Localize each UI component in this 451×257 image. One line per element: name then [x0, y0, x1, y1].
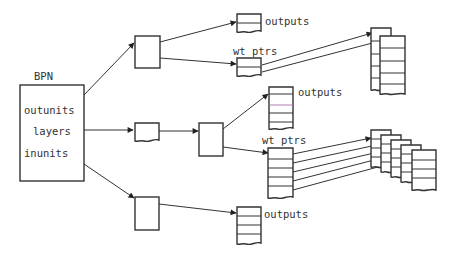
arrow-bottom-to-outputs [159, 204, 236, 213]
top-weight-array-2 [380, 36, 405, 95]
arrow-outunits-to-top-layer [84, 43, 134, 95]
top-wtptrs-label: wt ptrs [233, 45, 277, 57]
middle-wtptrs-label: wt ptrs [262, 134, 306, 146]
top-wtptrs-array [237, 58, 261, 76]
arrow-wtptr-1 [262, 33, 372, 65]
top-outputs-array [237, 14, 261, 32]
top-outputs-label: outputs [265, 15, 309, 27]
arrow-inunits-to-bottom-layer [84, 164, 134, 198]
arrow-wtptr-2 [262, 41, 380, 72]
arrow-top-to-wtptrs [160, 58, 236, 64]
top-layer-node [135, 36, 160, 68]
middle-layer-node [199, 123, 223, 156]
middle-wtptrs-array [268, 148, 293, 198]
layers-array [135, 123, 159, 141]
bottom-outputs-label: outputs [264, 208, 308, 220]
bottom-layer-node [135, 197, 159, 230]
field-layers: layers [33, 125, 71, 137]
bpn-title-label: BPN [34, 70, 53, 82]
middle-outputs-array [269, 87, 293, 129]
field-outunits: outunits [24, 104, 75, 116]
bpn-structure-diagram: BPN outunits layers inunits outputs wt p… [0, 0, 451, 257]
field-inunits: inunits [24, 147, 68, 159]
bottom-outputs-array [237, 207, 261, 244]
arrow-top-to-outputs [160, 22, 236, 42]
arrow-middle-to-outputs [223, 94, 268, 129]
bpn-root-node: BPN outunits layers inunits [20, 70, 84, 181]
arrow-mid-wtptr-2 [293, 144, 381, 163]
arrow-middle-to-wtptrs [223, 147, 268, 153]
middle-outputs-label: outputs [298, 86, 342, 98]
middle-weight-array-5 [412, 150, 436, 191]
